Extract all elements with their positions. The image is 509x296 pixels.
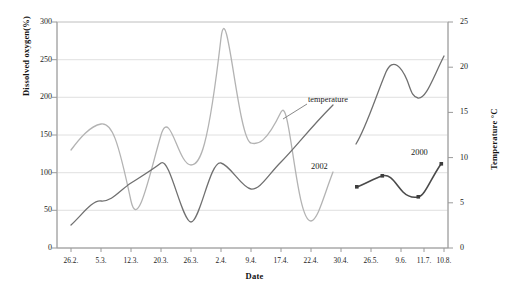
y-left-tick-300: 300 [22,17,52,26]
x-tick-label-8: 22.4. [294,256,328,265]
y-right-tick-5: 5 [460,198,490,207]
x-tick-label-4: 26.3. [174,256,208,265]
chart-svg [0,0,509,296]
y-left-tick-0: 0 [22,243,52,252]
x-axis-title: Date [0,271,509,281]
x-tick-label-9: 30.4. [324,256,358,265]
y-right-tick-10: 10 [460,153,490,162]
x-tick-label-13: 10.8. [427,256,461,265]
y-left-tick-250: 250 [22,55,52,64]
x-tick-label-6: 9.4. [234,256,268,265]
y-right-ticks [448,22,453,248]
y-left-tick-100: 100 [22,168,52,177]
x-ticks [71,248,444,252]
y-left-tick-50: 50 [22,205,52,214]
annotation-temperature: temperature [308,95,348,104]
y-axis-right-title: Temperature °C [489,108,499,170]
y-right-tick-0: 0 [460,243,490,252]
x-tick-label-2: 12.3. [114,256,148,265]
y-left-tick-200: 200 [22,92,52,101]
x-tick-label-3: 20.3. [144,256,178,265]
annotation-2000: 2000 [411,148,428,157]
y-left-ticks [52,22,57,248]
annotation-2002: 2002 [311,162,328,171]
x-tick-label-10: 26.5. [354,256,388,265]
x-tick-label-7: 17.4. [264,256,298,265]
x-tick-label-1: 5.3. [84,256,118,265]
x-tick-label-0: 26.2. [54,256,88,265]
y-left-tick-150: 150 [22,130,52,139]
x-tick-label-5: 2.4. [204,256,238,265]
chart-container: Dissolved oxygen(%) Temperature °C Date … [0,0,509,296]
y-right-tick-25: 25 [460,17,490,26]
y-right-tick-15: 15 [460,107,490,116]
y-right-tick-20: 20 [460,62,490,71]
